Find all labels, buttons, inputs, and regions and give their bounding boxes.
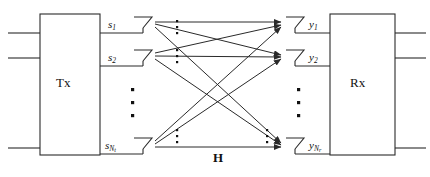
antenna-icon-rx1	[286, 17, 304, 28]
antenna-icon-tx3	[134, 138, 152, 149]
signal-label-y2: y2	[309, 52, 318, 64]
rx-block-label: Rx	[350, 76, 365, 89]
ellipsis-channel-col-3	[176, 129, 178, 143]
signal-sub-sNt: Nt	[109, 144, 116, 153]
channel-path-2-1	[155, 25, 281, 53]
signal-label-s1: s1	[108, 19, 116, 31]
antenna-icon-tx1	[134, 17, 152, 28]
mimo-diagram: Tx Rx s1 s2 sNt y1 y2 yNr H	[0, 0, 430, 177]
signal-label-sNt: sNt	[105, 140, 116, 153]
signal-label-y1: y1	[309, 19, 318, 31]
channel-path-2-2	[155, 56, 281, 57]
antenna-icon-tx2	[134, 50, 152, 61]
channel-paths	[155, 22, 281, 147]
antenna-icon-rx2	[286, 50, 304, 61]
signal-label-s2: s2	[108, 52, 116, 64]
signal-sub-s1: 1	[112, 23, 116, 32]
antenna-icon-rx3	[286, 138, 304, 149]
ellipsis-tx-antennas	[131, 88, 134, 117]
ellipsis-channel-col-1	[176, 20, 178, 34]
tx-block-label: Tx	[56, 76, 70, 89]
signal-sub-y1: 1	[314, 23, 318, 32]
ellipsis-channel-col-2	[176, 49, 178, 63]
signal-label-yNr: yNr	[309, 140, 321, 153]
signal-sub-y2: 2	[314, 56, 318, 65]
channel-matrix-label: H	[213, 151, 223, 164]
signal-sub-yNr: Nr	[314, 144, 321, 153]
ellipsis-channel-col-4	[266, 129, 268, 143]
signal-sub-s2: 2	[112, 56, 116, 65]
ellipsis-rx-antennas	[297, 88, 300, 117]
